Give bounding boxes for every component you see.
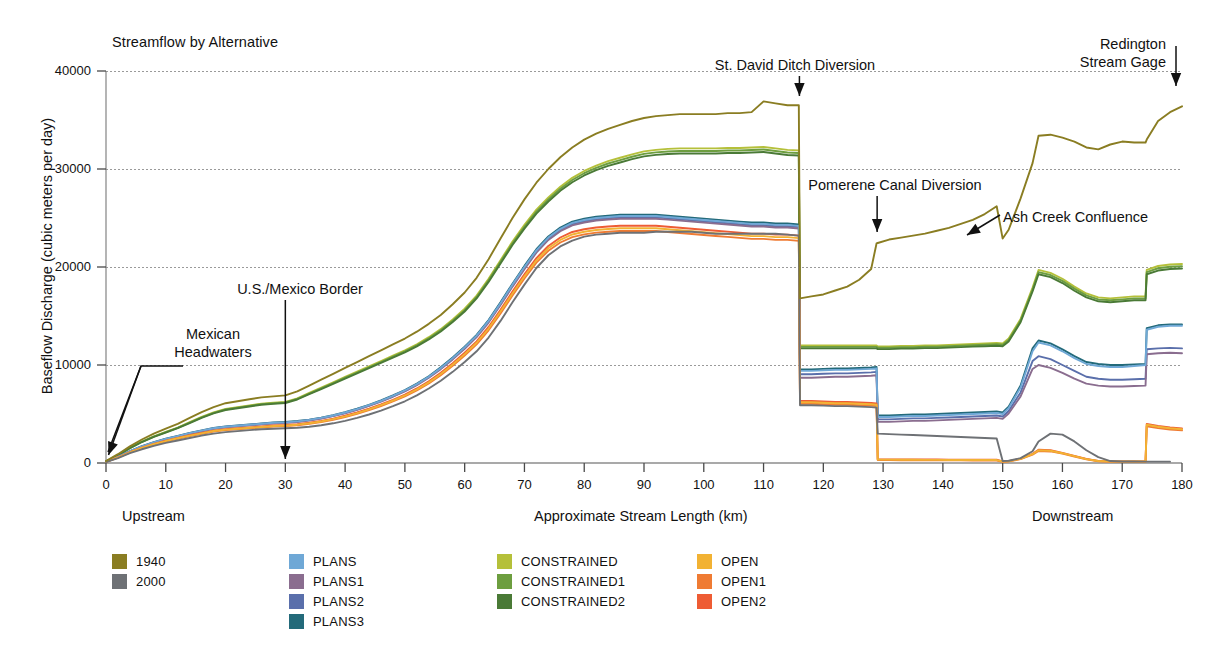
x-tick-label: 70	[502, 477, 546, 492]
x-axis-downstream-label: Downstream	[1032, 508, 1113, 524]
x-tick-label: 180	[1160, 477, 1204, 492]
legend-label: 2000	[136, 574, 166, 589]
annotation-ash-creek-confluence-line1: Ash Creek Confluence	[1003, 209, 1148, 227]
legend-label: PLANS3	[313, 614, 364, 629]
axis-ticks	[97, 71, 1182, 472]
annotation-ash-creek-confluence: Ash Creek Confluence	[1003, 209, 1148, 227]
annotation-mexican-headwaters-line1: Mexican	[148, 326, 278, 344]
x-tick-label: 60	[443, 477, 487, 492]
x-tick-label: 140	[921, 477, 965, 492]
legend-column-4: OPENOPEN1OPEN2	[697, 552, 766, 612]
y-tick-label: 40000	[29, 63, 91, 78]
legend-swatch-icon	[112, 554, 127, 569]
x-tick-label: 90	[622, 477, 666, 492]
legend-item[interactable]: OPEN1	[697, 572, 766, 591]
pomerene-canal-diversion-arrow-head	[872, 219, 882, 232]
legend-label: CONSTRAINED2	[521, 594, 625, 609]
annotation-pomerene-canal-diversion-line1: Pomerene Canal Diversion	[789, 177, 1001, 195]
legend-label: 1940	[136, 554, 166, 569]
redington-stream-gage-arrow-head	[1171, 73, 1181, 86]
annotation-us-mexico-border-line1: U.S./Mexico Border	[212, 281, 388, 299]
annotation-st-david-ditch-diversion-line1: St. David Ditch Diversion	[700, 57, 890, 75]
mexican-headwaters-arrow-shaft	[109, 366, 142, 455]
x-tick-label: 130	[861, 477, 905, 492]
legend-item[interactable]: CONSTRAINED	[497, 552, 625, 571]
legend-column-3: CONSTRAINEDCONSTRAINED1CONSTRAINED2	[497, 552, 625, 612]
x-tick-label: 170	[1100, 477, 1144, 492]
x-tick-label: 100	[682, 477, 726, 492]
streamflow-chart-figure: Streamflow by Alternative Baseflow Disch…	[0, 0, 1212, 671]
legend-label: PLANS2	[313, 594, 364, 609]
legend-label: OPEN1	[721, 574, 766, 589]
x-tick-label: 0	[84, 477, 128, 492]
annotation-redington-stream-gage: Redington Stream Gage	[970, 36, 1166, 71]
legend-column-1: 19402000	[112, 552, 166, 592]
y-tick-label: 20000	[29, 259, 91, 274]
x-tick-label: 110	[742, 477, 786, 492]
ash-creek-confluence-arrow-head	[967, 224, 981, 235]
legend-swatch-icon	[289, 594, 304, 609]
x-tick-label: 160	[1040, 477, 1084, 492]
x-tick-label: 10	[144, 477, 188, 492]
annotation-redington-stream-gage-line2: Stream Gage	[970, 54, 1166, 72]
legend-column-2: PLANSPLANS1PLANS2PLANS3	[289, 552, 364, 632]
x-tick-label: 20	[204, 477, 248, 492]
annotation-st-david-ditch-diversion: St. David Ditch Diversion	[700, 57, 890, 75]
legend-label: CONSTRAINED	[521, 554, 618, 569]
legend-label: PLANS1	[313, 574, 364, 589]
legend-swatch-icon	[289, 554, 304, 569]
legend-swatch-icon	[497, 574, 512, 589]
legend-label: OPEN2	[721, 594, 766, 609]
y-tick-label: 30000	[29, 161, 91, 176]
legend-swatch-icon	[697, 594, 712, 609]
legend-swatch-icon	[112, 574, 127, 589]
annotation-redington-stream-gage-line1: Redington	[970, 36, 1166, 54]
annotation-pomerene-canal-diversion: Pomerene Canal Diversion	[789, 177, 1001, 195]
x-tick-label: 120	[801, 477, 845, 492]
x-tick-label: 30	[263, 477, 307, 492]
legend-item[interactable]: PLANS1	[289, 572, 364, 591]
legend-swatch-icon	[697, 554, 712, 569]
x-tick-label: 50	[383, 477, 427, 492]
x-tick-label: 150	[981, 477, 1025, 492]
legend-item[interactable]: PLANS3	[289, 612, 364, 631]
legend-item[interactable]: PLANS	[289, 552, 364, 571]
x-axis-title: Approximate Stream Length (km)	[534, 508, 748, 524]
series-line-constrained	[106, 147, 1182, 461]
y-tick-label: 10000	[29, 357, 91, 372]
legend-item[interactable]: CONSTRAINED2	[497, 592, 625, 611]
st-david-ditch-diversion-arrow-head	[794, 83, 804, 96]
annotation-mexican-headwaters: Mexican Headwaters	[148, 326, 278, 361]
x-tick-label: 80	[562, 477, 606, 492]
legend-item[interactable]: PLANS2	[289, 592, 364, 611]
x-tick-label: 40	[323, 477, 367, 492]
y-tick-label: 0	[29, 455, 91, 470]
legend-item[interactable]: OPEN	[697, 552, 766, 571]
legend-label: CONSTRAINED1	[521, 574, 625, 589]
annotation-us-mexico-border: U.S./Mexico Border	[212, 281, 388, 299]
legend-swatch-icon	[497, 594, 512, 609]
legend-label: OPEN	[721, 554, 759, 569]
legend-swatch-icon	[289, 614, 304, 629]
us-mexico-border-arrow-head	[280, 446, 290, 459]
legend-swatch-icon	[289, 574, 304, 589]
legend-item[interactable]: OPEN2	[697, 592, 766, 611]
legend-item[interactable]: 1940	[112, 552, 166, 571]
x-axis-upstream-label: Upstream	[122, 508, 185, 524]
legend-item[interactable]: CONSTRAINED1	[497, 572, 625, 591]
annotation-mexican-headwaters-line2: Headwaters	[148, 344, 278, 362]
legend-swatch-icon	[497, 554, 512, 569]
mexican-headwaters-arrow-head	[108, 441, 118, 455]
legend-swatch-icon	[697, 574, 712, 589]
legend-label: PLANS	[313, 554, 357, 569]
legend-item[interactable]: 2000	[112, 572, 166, 591]
